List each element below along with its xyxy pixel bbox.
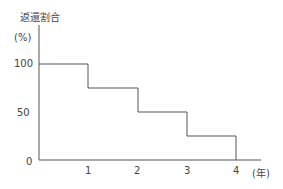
x-tick-1: 1 xyxy=(85,165,91,176)
y-axis-title: 返還割合 xyxy=(20,9,60,24)
x-tick-2: 2 xyxy=(134,165,140,176)
x-tick-4: 4 xyxy=(233,165,239,176)
x-axis-unit: (年) xyxy=(252,165,270,180)
step-chart xyxy=(0,0,283,189)
y-tick-0: 0 xyxy=(26,156,32,167)
y-axis-unit: (%) xyxy=(14,32,31,43)
step-line xyxy=(39,64,236,160)
y-tick-100: 100 xyxy=(14,58,33,69)
y-tick-50: 50 xyxy=(17,107,30,118)
x-tick-3: 3 xyxy=(184,165,190,176)
